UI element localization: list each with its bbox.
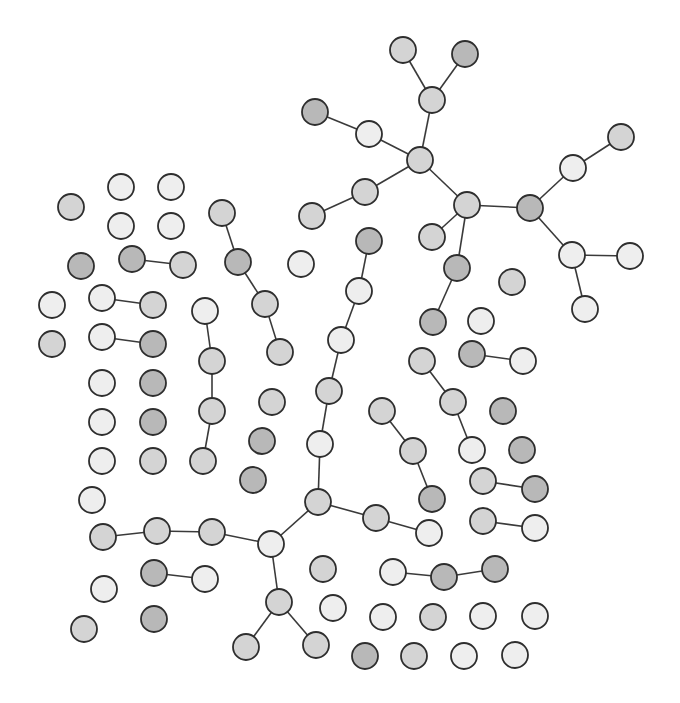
graph-node-dark [140, 409, 166, 435]
graph-node-light [320, 595, 346, 621]
graph-node-mid [90, 524, 116, 550]
graph-node-dark [490, 398, 516, 424]
graph-node-light [468, 308, 494, 334]
graph-node-light [559, 242, 585, 268]
graph-node-light [89, 285, 115, 311]
graph-node-mid [259, 389, 285, 415]
graph-node-light [451, 643, 477, 669]
graph-node-mid [419, 87, 445, 113]
graph-node-light [522, 515, 548, 541]
graph-node-mid [499, 269, 525, 295]
graph-node-mid [144, 518, 170, 544]
graph-node-mid [420, 604, 446, 630]
graph-node-light [39, 292, 65, 318]
graph-node-light [91, 576, 117, 602]
graph-node-mid [470, 468, 496, 494]
graph-node-mid [316, 378, 342, 404]
graph-node-dark [517, 195, 543, 221]
graph-node-light [380, 559, 406, 585]
graph-node-dark [240, 467, 266, 493]
graph-node-dark [352, 643, 378, 669]
graph-node-mid [170, 252, 196, 278]
graph-node-dark [509, 437, 535, 463]
graph-node-mid [199, 348, 225, 374]
graph-node-dark [459, 341, 485, 367]
graph-node-mid [401, 643, 427, 669]
graph-node-mid [299, 203, 325, 229]
graph-node-light [370, 604, 396, 630]
graph-node-dark [302, 99, 328, 125]
graph-node-dark [225, 249, 251, 275]
graph-node-light [416, 520, 442, 546]
graph-node-mid [190, 448, 216, 474]
graph-node-mid [303, 632, 329, 658]
graph-node-mid [470, 508, 496, 534]
network-diagram [0, 0, 680, 703]
graph-node-dark [140, 370, 166, 396]
graph-node-light [560, 155, 586, 181]
graph-node-light [307, 431, 333, 457]
graph-node-light [158, 213, 184, 239]
graph-node-light [470, 603, 496, 629]
graph-node-mid [352, 179, 378, 205]
graph-node-mid [199, 519, 225, 545]
graph-node-dark [119, 246, 145, 272]
graph-node-mid [39, 331, 65, 357]
graph-node-light [158, 174, 184, 200]
graph-node-mid [209, 200, 235, 226]
graph-node-mid [140, 448, 166, 474]
graph-node-dark [482, 556, 508, 582]
graph-node-light [346, 278, 372, 304]
graph-node-light [522, 603, 548, 629]
graph-node-light [288, 251, 314, 277]
graph-node-mid [608, 124, 634, 150]
graph-node-light [89, 324, 115, 350]
graph-node-mid [58, 194, 84, 220]
graph-node-dark [419, 486, 445, 512]
graph-node-light [108, 213, 134, 239]
graph-node-mid [409, 348, 435, 374]
graph-node-light [502, 642, 528, 668]
graph-node-dark [249, 428, 275, 454]
graph-node-light [258, 531, 284, 557]
graph-node-mid [233, 634, 259, 660]
graph-node-light [89, 448, 115, 474]
graph-node-light [89, 370, 115, 396]
graph-node-dark [420, 309, 446, 335]
graph-node-light [192, 298, 218, 324]
graph-node-dark [141, 560, 167, 586]
graph-node-mid [407, 147, 433, 173]
graph-node-light [356, 121, 382, 147]
graph-node-dark [140, 331, 166, 357]
graph-node-dark [522, 476, 548, 502]
graph-node-mid [390, 37, 416, 63]
graph-node-mid [267, 339, 293, 365]
graph-node-dark [452, 41, 478, 67]
graph-node-mid [310, 556, 336, 582]
graph-node-mid [363, 505, 389, 531]
graph-node-dark [356, 228, 382, 254]
graph-node-mid [454, 192, 480, 218]
graph-node-mid [419, 224, 445, 250]
graph-node-mid [369, 398, 395, 424]
graph-node-mid [140, 292, 166, 318]
graph-node-mid [71, 616, 97, 642]
graph-node-dark [444, 255, 470, 281]
graph-node-light [89, 409, 115, 435]
graph-node-mid [440, 389, 466, 415]
graph-node-dark [141, 606, 167, 632]
node-layer [39, 37, 643, 669]
graph-node-dark [68, 253, 94, 279]
graph-node-mid [199, 398, 225, 424]
graph-node-mid [305, 489, 331, 515]
graph-node-light [328, 327, 354, 353]
graph-node-light [510, 348, 536, 374]
graph-node-light [572, 296, 598, 322]
graph-node-light [459, 437, 485, 463]
graph-node-mid [266, 589, 292, 615]
graph-node-mid [400, 438, 426, 464]
graph-node-light [79, 487, 105, 513]
graph-node-light [192, 566, 218, 592]
graph-node-light [617, 243, 643, 269]
graph-node-mid [252, 291, 278, 317]
